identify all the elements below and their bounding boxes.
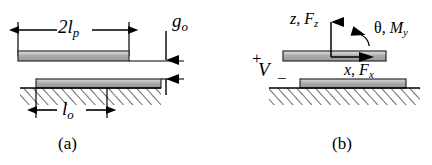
- panel-a-upper-plate: [18, 51, 129, 61]
- caption-panel-a: (a): [58, 134, 77, 154]
- ground-hatching: [269, 88, 420, 105]
- panel-b-upper-plate: [283, 51, 386, 61]
- panel-a-ground: [20, 88, 161, 105]
- label-polarity-minus: −: [277, 70, 287, 87]
- lower-plate-body: [300, 79, 406, 88]
- upper-plate-body: [283, 51, 386, 61]
- ground-hatching: [20, 88, 161, 105]
- caption-panel-b: (b): [332, 134, 352, 154]
- label-voltage: V: [258, 60, 270, 79]
- label-gap: go: [172, 11, 188, 34]
- label-rotation-moment: θ, My: [374, 20, 408, 38]
- panel-a-lower-plate: [36, 79, 161, 88]
- panel-b-lower-plate: [300, 79, 406, 88]
- panel-b-moment-leader-line: [352, 31, 369, 46]
- label-axis-x: x, Fx: [344, 62, 374, 80]
- label-substrate-length: lo: [62, 99, 74, 122]
- lower-plate-body: [36, 79, 161, 88]
- upper-plate-body: [18, 51, 129, 61]
- label-axis-z: z, Fz: [290, 11, 318, 29]
- figure-container: 2lp go lo (a) z, Fz θ, My x, Fx + V − (b…: [0, 0, 432, 165]
- label-plate-length: 2lp: [58, 17, 79, 40]
- panel-b-ground: [269, 88, 420, 105]
